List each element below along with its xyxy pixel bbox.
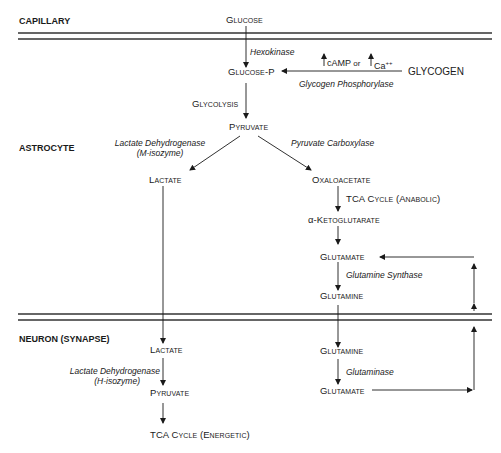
metabolite-glutamine-astrocyte: Glutamine (320, 291, 363, 301)
regulator-or-label: or (353, 59, 360, 68)
enzyme-ldh-h: Lactate Dehydrogenase (H-isozyme) (55, 366, 160, 386)
regulator-camp-label: cAMP (327, 58, 351, 68)
region-label-capillary: CAPILLARY (19, 16, 70, 26)
enzyme-ldh-h-isozyme: (H-isozyme) (55, 376, 160, 386)
region-label-neuron: NEURON (SYNAPSE) (19, 334, 110, 344)
process-tca-anabolic: TCA Cycle (Anabolic) (346, 194, 440, 204)
regulator-ca-charge: ++ (386, 60, 393, 66)
enzyme-ldh-m-name: Lactate Dehydrogenase (110, 138, 210, 148)
alpha-prefix: α- (308, 214, 317, 225)
metabolite-glutamate-neuron: Glutamate (320, 386, 365, 396)
regulator-ca-label: Ca (374, 61, 386, 71)
region-label-astrocyte: ASTROCYTE (19, 143, 75, 153)
enzyme-ldh-h-name: Lactate Dehydrogenase (55, 366, 160, 376)
synapse-membrane (18, 314, 492, 320)
metabolite-alpha-ketoglutarate: α-Ketoglutarate (308, 215, 380, 225)
process-glycolysis: Glycolysis (192, 99, 238, 109)
regulator-calcium: Ca++ (374, 58, 393, 71)
enzyme-glutamine-synthase: Glutamine Synthase (346, 270, 423, 280)
process-tca-energetic: TCA Cycle (Energetic) (150, 430, 250, 440)
enzyme-hexokinase: Hexokinase (250, 47, 294, 57)
metabolite-lactate-neuron: Lactate (150, 345, 183, 355)
metabolite-glycogen: GLYCOGEN (408, 67, 464, 77)
capillary-membrane (18, 33, 492, 39)
enzyme-ldh-m: Lactate Dehydrogenase (M-isozyme) (110, 138, 210, 158)
enzyme-glutaminase: Glutaminase (346, 367, 394, 377)
enzyme-ldh-m-isozyme: (M-isozyme) (110, 148, 210, 158)
metabolite-glutamate-astrocyte: Glutamate (320, 252, 365, 262)
metabolite-glucose: Glucose (226, 15, 263, 25)
enzyme-glycogen-phosphorylase: Glycogen Phosphorylase (299, 79, 394, 89)
metabolite-lactate-astrocyte: Lactate (149, 175, 182, 185)
metabolite-glutamine-neuron: Glutamine (320, 346, 363, 356)
metabolite-glucose-p: Glucose-P (228, 67, 275, 77)
metabolite-pyruvate-astrocyte: Pyruvate (229, 122, 268, 132)
enzyme-pyruvate-carboxylase: Pyruvate Carboxylase (291, 138, 374, 148)
ketoglutarate-label: Ketoglutarate (317, 214, 380, 225)
regulator-camp: cAMP or (327, 58, 360, 69)
metabolite-oxaloacetate: Oxaloacetate (312, 175, 371, 185)
metabolite-pyruvate-neuron: Pyruvate (150, 388, 189, 398)
